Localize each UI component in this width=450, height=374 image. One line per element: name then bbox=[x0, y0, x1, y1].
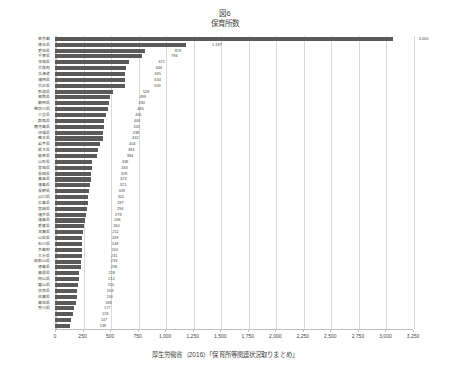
x-tick-label: 1,000 bbox=[159, 333, 172, 339]
bar[interactable] bbox=[55, 183, 90, 187]
figure-number: 図6 bbox=[0, 9, 450, 19]
bar[interactable] bbox=[55, 72, 125, 76]
x-tick-label: 1,250 bbox=[186, 333, 199, 339]
bar[interactable] bbox=[55, 43, 186, 47]
bar[interactable] bbox=[55, 160, 92, 164]
bar[interactable] bbox=[55, 84, 125, 88]
bar[interactable] bbox=[55, 260, 81, 264]
bar[interactable] bbox=[55, 289, 77, 293]
x-tick-label: 0 bbox=[54, 333, 57, 339]
chart-title-block: 図6 保育所数 bbox=[0, 9, 450, 29]
bar[interactable] bbox=[55, 277, 79, 281]
bar[interactable] bbox=[55, 142, 100, 146]
x-tick-label: 2,000 bbox=[269, 333, 282, 339]
bar[interactable] bbox=[55, 189, 89, 193]
x-tick-label: 1,750 bbox=[242, 333, 255, 339]
bar[interactable] bbox=[55, 271, 79, 275]
bar-rows: 東京都3,065埼玉県1,187愛知県819千葉県786茨城県671大阪府646… bbox=[0, 36, 450, 329]
bar[interactable] bbox=[55, 218, 85, 222]
bar[interactable] bbox=[55, 113, 106, 117]
bar[interactable] bbox=[55, 230, 83, 234]
bar[interactable] bbox=[55, 148, 98, 152]
bar[interactable] bbox=[55, 213, 86, 217]
bar[interactable] bbox=[55, 312, 73, 316]
bar[interactable] bbox=[55, 166, 92, 170]
x-tick-label: 2,750 bbox=[352, 333, 365, 339]
bar[interactable] bbox=[55, 90, 113, 94]
bar[interactable] bbox=[55, 125, 104, 129]
bar[interactable] bbox=[55, 242, 82, 246]
bar[interactable] bbox=[55, 306, 74, 310]
bar[interactable] bbox=[55, 324, 70, 328]
bar[interactable] bbox=[55, 207, 87, 211]
bar[interactable] bbox=[55, 283, 78, 287]
x-axis: 02505007501,0001,2501,5001,7502,0002,250… bbox=[55, 329, 413, 344]
bar[interactable] bbox=[55, 224, 84, 228]
x-tick-label: 250 bbox=[78, 333, 86, 339]
bar[interactable] bbox=[55, 95, 110, 99]
bar[interactable] bbox=[55, 107, 108, 111]
x-tick-label: 2,250 bbox=[297, 333, 310, 339]
bar[interactable] bbox=[55, 172, 91, 176]
bar[interactable] bbox=[55, 60, 129, 64]
x-tick-label: 1,500 bbox=[214, 333, 227, 339]
bar[interactable] bbox=[55, 295, 77, 299]
bar[interactable] bbox=[55, 201, 88, 205]
x-tick-label: 500 bbox=[106, 333, 114, 339]
bar[interactable] bbox=[55, 66, 126, 70]
bar[interactable] bbox=[55, 177, 91, 181]
x-tick-label: 2,500 bbox=[324, 333, 337, 339]
x-tick-label: 750 bbox=[133, 333, 141, 339]
bar[interactable] bbox=[55, 265, 81, 269]
bar[interactable] bbox=[55, 318, 71, 322]
bar[interactable] bbox=[55, 101, 109, 105]
bar[interactable] bbox=[55, 254, 82, 258]
bar[interactable] bbox=[55, 195, 88, 199]
source-caption: 厚生労働省（2016）「保育所等関連状況取りまとめ」 bbox=[0, 350, 450, 359]
bar[interactable] bbox=[55, 119, 104, 123]
bar[interactable] bbox=[55, 54, 142, 58]
x-tick-label: 3,250 bbox=[407, 333, 420, 339]
x-tick-label: 3,000 bbox=[379, 333, 392, 339]
figure-container: 図6 保育所数 東京都3,065埼玉県1,187愛知県819千葉県786茨城県6… bbox=[0, 0, 450, 374]
bar[interactable] bbox=[55, 37, 393, 41]
chart-title: 保育所数 bbox=[0, 19, 450, 29]
bar[interactable] bbox=[55, 301, 76, 305]
bar[interactable] bbox=[55, 248, 82, 252]
bar[interactable] bbox=[55, 131, 103, 135]
bar[interactable] bbox=[55, 136, 103, 140]
bar[interactable] bbox=[55, 154, 97, 158]
bar[interactable] bbox=[55, 236, 82, 240]
bar[interactable] bbox=[55, 49, 145, 53]
bar[interactable] bbox=[55, 78, 125, 82]
